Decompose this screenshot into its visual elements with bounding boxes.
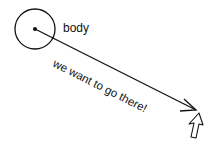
body-label: body <box>63 21 89 35</box>
path-label: we want to go there! <box>50 57 149 115</box>
cursor-arrow-icon <box>189 113 203 138</box>
diagram-canvas: body we want to go there! <box>0 0 211 149</box>
